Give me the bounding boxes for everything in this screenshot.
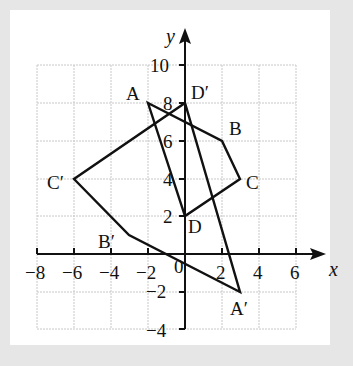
vertex-label-B: B: [229, 118, 242, 139]
x-tick-label: −2: [136, 262, 156, 283]
vertex-label-A-prime: A′: [230, 298, 248, 319]
x-axis-label: x: [328, 258, 338, 280]
y-tick-label: −2: [146, 281, 166, 302]
y-tick-label: 2: [163, 206, 173, 227]
vertex-label-D: D: [188, 216, 202, 237]
vertex-label-C-prime: C′: [47, 172, 64, 193]
coordinate-plane: x y −8 −6 −4 −2 0 2 4 6 10 8 6 4 2 −2 −4…: [0, 0, 353, 366]
x-tick-label: −8: [25, 262, 45, 283]
y-tick-label: −4: [146, 320, 167, 341]
y-tick-label: 10: [150, 55, 169, 76]
vertex-label-C: C: [246, 172, 259, 193]
x-tick-label: 4: [253, 262, 263, 283]
x-tick-label: −4: [99, 262, 120, 283]
x-tick-label: 6: [290, 262, 300, 283]
y-axis-label: y: [164, 25, 175, 48]
x-tick-label: −6: [62, 262, 82, 283]
y-tick-label: 6: [163, 131, 173, 152]
vertex-label-B-prime: B′: [98, 231, 115, 252]
vertex-label-A: A: [126, 83, 140, 104]
vertex-label-D-prime: D′: [191, 82, 209, 103]
